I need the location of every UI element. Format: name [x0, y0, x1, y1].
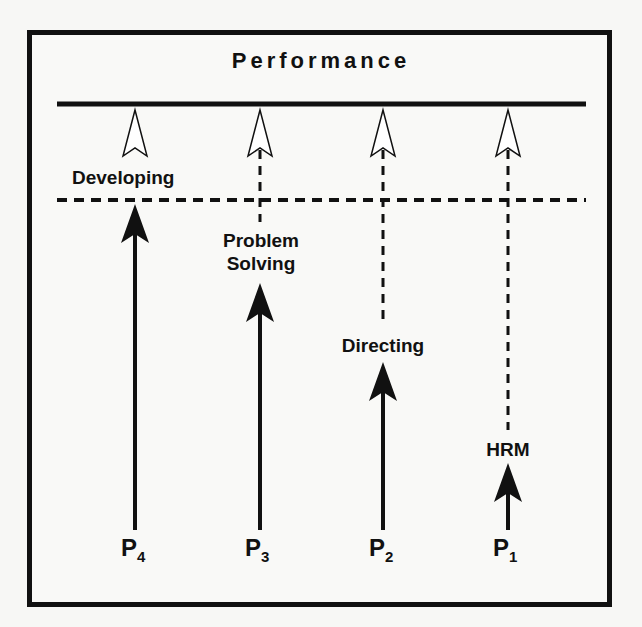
stage-label-developing: Developing	[72, 166, 174, 189]
hollow-arrow-icon	[123, 110, 147, 156]
stage-label-line: Solving	[200, 252, 322, 275]
diagram-title: Performance	[0, 48, 642, 74]
position-label-p4: P4	[121, 534, 145, 565]
hollow-arrow-icon	[371, 110, 395, 156]
stage-label-problem-solving: Problem Solving	[200, 229, 322, 275]
hollow-arrow-icon	[496, 110, 520, 156]
diagram-canvas	[0, 0, 642, 627]
stage-label-line: Problem	[200, 229, 322, 252]
hollow-arrow-icon	[248, 110, 272, 156]
stage-label-directing: Directing	[323, 334, 443, 357]
stage-label-hrm: HRM	[472, 438, 544, 461]
position-label-p2: P2	[369, 534, 393, 565]
position-label-p3: P3	[245, 534, 269, 565]
position-label-p1: P1	[493, 534, 517, 565]
